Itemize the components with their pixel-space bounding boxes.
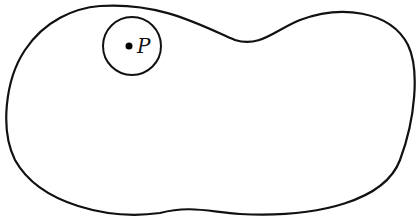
point-p-label: P [136, 34, 151, 58]
diagram-canvas: P [0, 0, 420, 218]
point-p-dot [126, 43, 133, 50]
region-boundary [6, 6, 414, 215]
